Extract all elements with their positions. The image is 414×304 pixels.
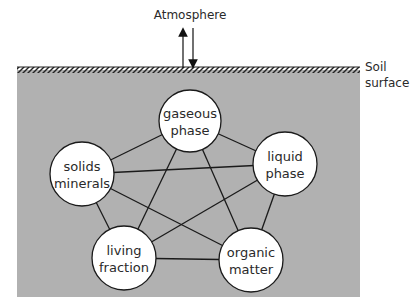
node-organic: organicmatter	[219, 228, 283, 292]
node-circle	[253, 132, 317, 196]
node-label: minerals	[54, 176, 110, 191]
node-label: matter	[229, 262, 274, 277]
soil-surface-hatching	[17, 67, 360, 73]
node-label: fraction	[99, 260, 149, 275]
node-label: gaseous	[163, 106, 217, 121]
soil-phases-diagram: Atmosphere Soil surface gaseousphaseliqu…	[0, 0, 414, 304]
node-liquid: liquidphase	[253, 132, 317, 196]
node-label: solids	[64, 159, 101, 174]
node-living: livingfraction	[92, 226, 156, 290]
node-circle	[159, 90, 221, 152]
node-label: living	[106, 243, 141, 258]
soil-label: Soil	[365, 60, 387, 74]
node-label: liquid	[267, 149, 303, 164]
node-circle	[92, 226, 156, 290]
node-label: organic	[227, 245, 275, 260]
node-solids: solidsminerals	[50, 142, 114, 206]
atmosphere-label: Atmosphere	[154, 8, 227, 22]
node-label: phase	[170, 123, 209, 138]
node-circle	[219, 228, 283, 292]
node-label: phase	[265, 166, 304, 181]
node-gaseous: gaseousphase	[159, 90, 221, 152]
surface-label: surface	[365, 76, 409, 90]
node-circle	[50, 142, 114, 206]
